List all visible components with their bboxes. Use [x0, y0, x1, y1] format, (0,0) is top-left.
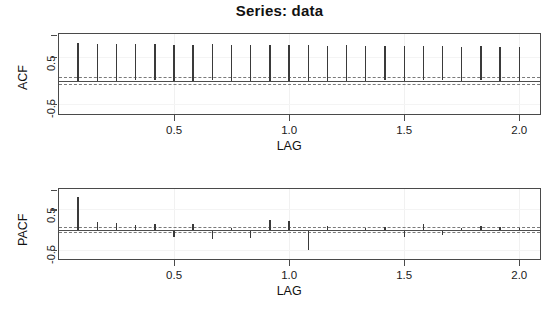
- gridline-vertical: [519, 189, 520, 259]
- spike: [231, 45, 232, 80]
- pacf-x-tick-label-3: 2.0: [511, 269, 527, 281]
- gridline-vertical: [404, 189, 405, 259]
- spike: [192, 45, 193, 81]
- confidence-band-upper: [59, 227, 540, 228]
- y-tick-mark: [51, 35, 57, 36]
- confidence-band-lower: [59, 84, 540, 85]
- x-tick-mark: [289, 115, 290, 121]
- pacf-y-axis-title: PACF: [16, 214, 30, 246]
- spike: [269, 220, 270, 230]
- spike: [77, 197, 78, 230]
- spike: [288, 45, 289, 80]
- gridline-horizontal: [59, 209, 540, 210]
- x-tick-mark: [404, 115, 405, 121]
- acf-x-tick-label-2: 1.5: [396, 124, 412, 136]
- spike: [327, 46, 328, 81]
- acf-plot-area: [58, 33, 541, 115]
- pacf-x-tick-label-2: 1.5: [396, 269, 412, 281]
- spike: [173, 45, 174, 81]
- acf-x-tick-label-3: 2.0: [511, 124, 527, 136]
- figure-title: Series: data: [0, 2, 559, 19]
- x-tick-mark: [174, 115, 175, 121]
- spike: [288, 221, 289, 230]
- spike: [154, 44, 155, 80]
- spike: [97, 44, 98, 81]
- spike: [77, 43, 78, 80]
- pacf-y-tick-label-1: -0.5: [45, 245, 57, 264]
- x-tick-mark: [519, 260, 520, 266]
- acf-pacf-figure: Series: data ACF 0.5 -0.5 0.5 1.0 1.5 2.…: [0, 0, 559, 313]
- spike: [97, 222, 98, 230]
- spike: [308, 45, 309, 81]
- spike: [250, 45, 251, 81]
- spike: [365, 46, 366, 81]
- x-tick-mark: [289, 260, 290, 266]
- gridline-horizontal: [59, 250, 540, 251]
- y-tick-mark: [51, 57, 57, 58]
- y-tick-mark: [51, 104, 57, 105]
- acf-y-axis-title: ACF: [16, 65, 30, 90]
- acf-x-tick-label-0: 0.5: [166, 124, 182, 136]
- spike: [212, 230, 213, 239]
- spike: [404, 230, 405, 237]
- zero-line: [59, 230, 540, 231]
- spike: [116, 223, 117, 230]
- x-tick-mark: [404, 260, 405, 266]
- y-tick-mark: [51, 190, 57, 191]
- pacf-x-tick-label-0: 0.5: [166, 269, 182, 281]
- pacf-plot-area: [58, 188, 541, 260]
- pacf-x-tick-label-1: 1.0: [281, 269, 297, 281]
- acf-panel: ACF 0.5 -0.5 0.5 1.0 1.5 2.0 LAG: [0, 24, 559, 164]
- spike: [212, 44, 213, 80]
- spike: [308, 230, 309, 250]
- spike: [499, 47, 500, 81]
- spike: [423, 46, 424, 80]
- spike: [480, 46, 481, 80]
- spike: [250, 230, 251, 238]
- spike: [404, 46, 405, 81]
- spike: [116, 44, 117, 81]
- gridline-vertical: [174, 189, 175, 259]
- acf-x-axis-title: LAG: [277, 139, 302, 153]
- acf-y-tick-label-1: -0.5: [45, 99, 57, 118]
- y-tick-mark: [51, 209, 57, 210]
- acf-x-tick-label-1: 1.0: [281, 124, 297, 136]
- spike: [442, 46, 443, 80]
- confidence-band-upper: [59, 77, 540, 78]
- y-tick-mark: [51, 250, 57, 251]
- spike: [135, 44, 136, 80]
- gridline-horizontal: [59, 104, 540, 105]
- zero-line: [59, 81, 540, 82]
- x-tick-mark: [174, 260, 175, 266]
- spike: [346, 45, 347, 80]
- confidence-band-lower: [59, 232, 540, 233]
- spike: [269, 45, 270, 80]
- pacf-panel: PACF 0.5 -0.5 0.5 1.0 1.5 2.0 LAG: [0, 178, 559, 313]
- spike: [519, 47, 520, 81]
- x-tick-mark: [519, 115, 520, 121]
- spike: [384, 46, 385, 80]
- pacf-x-axis-title: LAG: [277, 284, 302, 298]
- spike: [461, 47, 462, 81]
- gridline-horizontal: [59, 57, 540, 58]
